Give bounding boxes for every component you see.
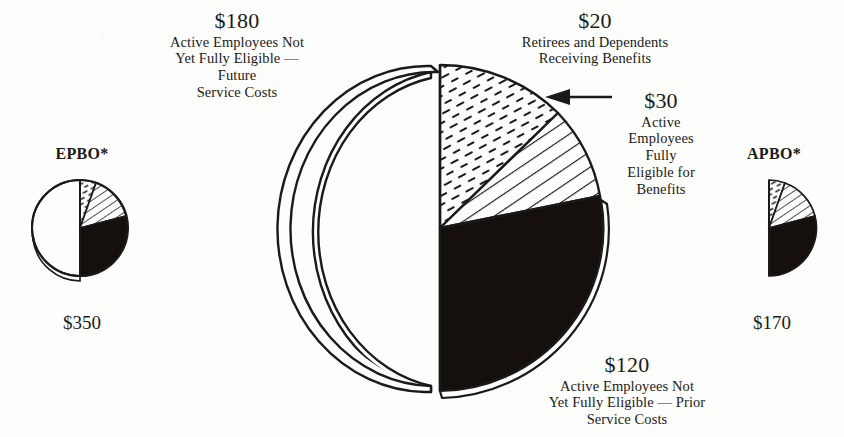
desc-30-line-1: Active (602, 114, 720, 131)
desc-180-line-1: Active Employees Not (112, 34, 362, 51)
desc-120-line-1: Active Employees Not (512, 378, 742, 395)
amount-20: $20 (480, 8, 710, 34)
left-pie-chart (32, 180, 128, 281)
label-segment-120: $120 Active Employees Not Yet Fully Elig… (512, 352, 742, 428)
right-pie-chart (769, 180, 817, 276)
desc-180-line-4: Service Costs (112, 84, 362, 101)
label-segment-20: $20 Retirees and Dependents Receiving Be… (480, 8, 710, 67)
desc-180-line-2: Yet Fully Eligible — (112, 50, 362, 67)
desc-30-line-3: Fully (602, 147, 720, 164)
desc-30-line-4: Eligible for (602, 164, 720, 181)
left-pie-title: EPBO* (30, 145, 134, 163)
right-pie-title: APBO* (722, 145, 826, 163)
desc-20-line-2: Receiving Benefits (480, 50, 710, 67)
amount-30: $30 (602, 88, 720, 114)
right-pie-value: $170 (718, 312, 826, 334)
left-pie-value: $350 (28, 312, 136, 334)
desc-180-line-3: Future (112, 67, 362, 84)
figure-canvas: $180 Active Employees Not Yet Fully Elig… (0, 0, 844, 437)
main-segment-180 (277, 66, 438, 392)
amount-120: $120 (512, 352, 742, 378)
desc-30-line-5: Benefits (602, 181, 720, 198)
desc-20-line-1: Retirees and Dependents (480, 34, 710, 51)
desc-120-line-2: Yet Fully Eligible — Prior (512, 394, 742, 411)
label-segment-180: $180 Active Employees Not Yet Fully Elig… (112, 8, 362, 101)
desc-30-line-2: Employees (602, 130, 720, 147)
desc-120-line-3: Service Costs (512, 411, 742, 428)
label-segment-30: $30 Active Employees Fully Eligible for … (602, 88, 720, 198)
amount-180: $180 (112, 8, 362, 34)
